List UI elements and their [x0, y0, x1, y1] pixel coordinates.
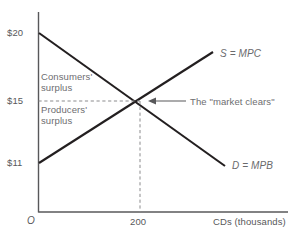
producers-surplus-label: Producers' surplus [41, 104, 87, 126]
y-tick-label-20: $20 [7, 27, 23, 38]
market-clears-annotation: The "market clears" [190, 96, 275, 107]
y-tick-label-15: $15 [7, 95, 23, 106]
origin-label: O [27, 215, 35, 226]
producers-surplus-line-2: surplus [41, 115, 87, 126]
y-tick-label-11: $11 [7, 157, 22, 168]
x-tick-label-200: 200 [130, 216, 146, 227]
supply-demand-chart: $20 $15 $11 O 200 CDs (thousands) S = MP… [0, 0, 302, 240]
market-clears-arrow-icon [148, 98, 186, 105]
x-axis-title: CDs (thousands) [213, 216, 286, 227]
producers-surplus-line-1: Producers' [41, 104, 87, 115]
consumers-surplus-line-2: surplus [41, 82, 92, 93]
consumers-surplus-line-1: Consumers' [41, 71, 92, 82]
demand-curve-label: D = MPB [232, 160, 273, 171]
consumers-surplus-label: Consumers' surplus [41, 71, 92, 93]
supply-curve-label: S = MPC [220, 48, 261, 59]
